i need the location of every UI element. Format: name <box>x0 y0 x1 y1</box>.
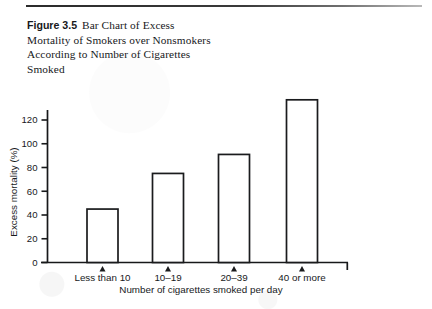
x-tick-marker <box>299 266 305 272</box>
x-tick-marker <box>100 266 106 272</box>
x-tick-marker <box>231 266 237 272</box>
y-tick-label: 40 <box>27 209 38 220</box>
x-tick-label: Less than 10 <box>74 272 131 283</box>
x-axis-title: Number of cigarettes smoked per day <box>119 284 282 295</box>
x-tick-marker <box>165 266 171 272</box>
bar-group <box>87 100 318 263</box>
bar-chart: Excess mortality (%) 020406080100120 Les… <box>0 0 432 309</box>
bar <box>287 100 318 263</box>
bar <box>87 209 118 262</box>
x-axis-ticks: Less than 1010–1920–3940 or more <box>74 266 326 283</box>
y-axis-ticks: 020406080100120 <box>21 114 47 268</box>
x-tick-label: 10–19 <box>154 272 181 283</box>
y-tick-label: 20 <box>27 233 38 244</box>
y-tick-label: 120 <box>21 114 37 125</box>
x-tick-label: 20–39 <box>220 272 247 283</box>
y-tick-label: 60 <box>27 186 38 197</box>
y-axis-title: Excess mortality (%) <box>8 147 19 236</box>
y-tick-label: 100 <box>21 138 37 149</box>
y-tick-label: 80 <box>27 162 38 173</box>
x-tick-label: 40 or more <box>278 272 326 283</box>
y-tick-label: 0 <box>32 257 37 268</box>
bar <box>153 173 184 262</box>
bar <box>219 154 250 262</box>
